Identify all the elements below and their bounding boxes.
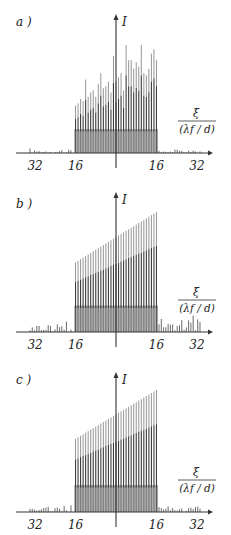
chart-a: a )Iξ(λf / d)32161632 <box>0 0 231 175</box>
y-axis-arrow-icon <box>114 372 119 378</box>
x-tick-label: 16 <box>149 518 165 532</box>
y-axis-label: I <box>121 15 127 29</box>
x-tick-label: 32 <box>27 338 42 352</box>
x-axis-label-numerator: ξ <box>193 286 200 299</box>
x-axis-label-denominator: (λf / d) <box>179 123 215 135</box>
x-tick-label: 16 <box>68 518 84 532</box>
panel-a: a )Iξ(λf / d)32161632 <box>0 0 231 175</box>
x-tick-label: 32 <box>189 159 204 173</box>
x-axis-label-denominator: (λf / d) <box>179 482 215 494</box>
x-tick-label: 16 <box>149 338 165 352</box>
x-tick-label: 16 <box>68 159 84 173</box>
x-tick-label: 32 <box>189 338 204 352</box>
panel-label: a ) <box>16 15 32 29</box>
panel-b: b )Iξ(λf / d)32161632 <box>0 178 231 353</box>
x-axis-arrow-icon <box>208 510 213 515</box>
chart-c: c )Iξ(λf / d)32161632 <box>0 358 231 535</box>
chart-b: b )Iξ(λf / d)32161632 <box>0 178 231 353</box>
x-tick-label: 32 <box>27 159 42 173</box>
y-axis-label: I <box>121 193 127 207</box>
x-axis-label-numerator: ξ <box>193 107 200 120</box>
panel-c: c )Iξ(λf / d)32161632 <box>0 358 231 535</box>
x-tick-label: 16 <box>68 338 84 352</box>
x-axis-label-numerator: ξ <box>193 466 200 479</box>
y-axis-arrow-icon <box>114 14 119 20</box>
y-axis-label: I <box>121 373 127 387</box>
x-axis-arrow-icon <box>208 151 213 156</box>
x-tick-label: 32 <box>27 518 42 532</box>
panel-label: c ) <box>16 373 32 387</box>
x-axis-label-denominator: (λf / d) <box>179 302 215 314</box>
x-axis-arrow-icon <box>208 330 213 335</box>
panel-label: b ) <box>16 197 32 211</box>
x-tick-label: 16 <box>149 159 165 173</box>
y-axis-arrow-icon <box>114 192 119 198</box>
x-tick-label: 32 <box>189 518 204 532</box>
